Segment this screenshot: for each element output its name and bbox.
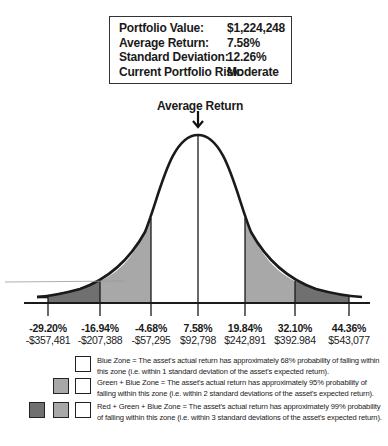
green-zone-swatch bbox=[53, 402, 69, 418]
x-axis-labels: -29.20% -$357,481 -16.94% -$207,388 -4.6… bbox=[0, 322, 388, 352]
tick-label: 44.36% $543,077 bbox=[314, 322, 384, 347]
blue-zone-swatch bbox=[75, 402, 91, 418]
bell-curve-line bbox=[37, 135, 362, 297]
tick-dollar: $543,077 bbox=[314, 334, 384, 347]
legend-text: Red + Green + Blue Zone = The asset's ac… bbox=[97, 401, 387, 423]
legend-text: Blue Zone = The asset's actual return ha… bbox=[97, 355, 387, 377]
tick-pct: 44.36% bbox=[314, 322, 384, 334]
red-zone-swatch bbox=[29, 402, 45, 418]
blue-zone-swatch bbox=[75, 378, 91, 394]
blue-zone-swatch bbox=[75, 356, 91, 372]
legend-text: Green + Blue Zone = The asset's actual r… bbox=[97, 377, 387, 399]
down-arrow-icon bbox=[193, 111, 203, 127]
green-zone-swatch bbox=[53, 378, 69, 394]
